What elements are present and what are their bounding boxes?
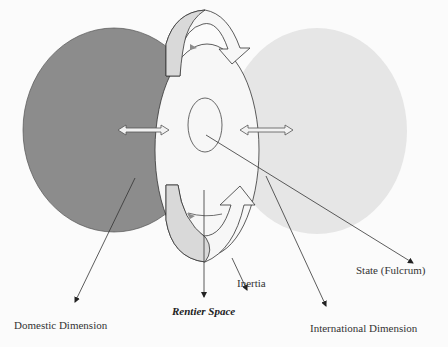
rentier-space-label: Rentier Space <box>172 305 235 317</box>
diagram-canvas: Domestic Dimension Rentier Space Inertia… <box>0 0 448 347</box>
state-fulcrum-ellipse <box>188 98 222 152</box>
domestic-dimension-label: Domestic Dimension <box>14 319 107 331</box>
inertia-label: Inertia <box>237 277 266 289</box>
diagram-graphics <box>0 0 448 347</box>
international-dimension-label: International Dimension <box>310 322 417 334</box>
state-fulcrum-label: State (Fulcrum) <box>356 264 425 276</box>
